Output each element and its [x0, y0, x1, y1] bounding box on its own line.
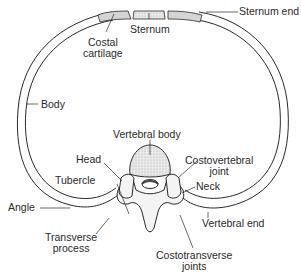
rib-diagram: Costal cartilage Sternum Sternum end Bod… [0, 0, 301, 275]
label-transverse-process-line2: process [45, 243, 97, 254]
label-head: Head [76, 154, 101, 165]
label-angle: Angle [8, 202, 35, 213]
vertebra [117, 145, 184, 232]
label-body: Body [41, 99, 65, 110]
label-costal-cartilage: Costal cartilage [83, 37, 123, 59]
label-costovertebral-joint: Costovertebral joint [185, 155, 253, 177]
label-vertebral-body: Vertebral body [113, 129, 181, 140]
label-costovertebral-line2: joint [185, 166, 253, 177]
right-rib [183, 12, 288, 208]
label-vertebral-end: Vertebral end [202, 218, 264, 229]
label-transverse-process: Transverse process [45, 232, 97, 254]
label-tubercle: Tubercle [55, 175, 95, 186]
label-costal-cartilage-line2: cartilage [83, 48, 123, 59]
left-costal-cartilage [98, 11, 131, 22]
label-sternum-end: Sternum end [239, 6, 299, 17]
right-costal-cartilage [168, 11, 202, 22]
label-neck: Neck [196, 181, 220, 192]
label-costotransverse-line2: joints [156, 261, 232, 272]
label-sternum: Sternum [130, 24, 170, 35]
label-costotransverse-joints: Costotransverse joints [156, 250, 232, 272]
